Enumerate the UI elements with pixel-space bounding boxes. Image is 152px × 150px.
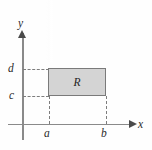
y-axis-arrowhead-icon — [18, 30, 26, 38]
x-tick-label-b: b — [101, 128, 107, 140]
y-axis-label: y — [18, 18, 23, 30]
rectangle-region-diagram: x y R d c a b — [0, 0, 152, 150]
dashed-guide-b — [106, 96, 107, 124]
y-tick-label-c: c — [9, 90, 14, 102]
dashed-guide-a — [49, 96, 50, 124]
region-label: R — [49, 69, 105, 95]
y-axis-line — [22, 33, 24, 140]
x-axis-label: x — [138, 119, 143, 131]
dashed-guide-d — [23, 69, 49, 70]
y-tick-label-d: d — [8, 63, 14, 75]
region-rectangle: R — [48, 68, 106, 96]
x-axis-arrowhead-icon — [129, 120, 137, 128]
dashed-guide-c — [23, 96, 49, 97]
scan-artifact-band — [46, 0, 55, 62]
x-axis-line — [8, 124, 130, 126]
x-tick-label-a: a — [44, 128, 50, 140]
